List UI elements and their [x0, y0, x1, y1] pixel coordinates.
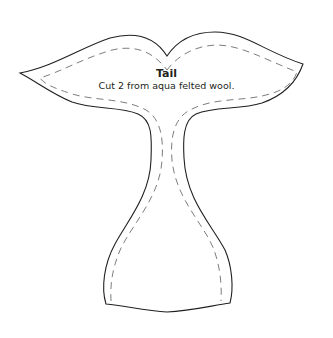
tail-pattern-diagram — [0, 0, 333, 338]
pattern-label: Tail Cut 2 from aqua felted wool. — [0, 67, 333, 92]
cutting-instruction: Cut 2 from aqua felted wool. — [0, 80, 333, 92]
pattern-title: Tail — [0, 67, 333, 80]
